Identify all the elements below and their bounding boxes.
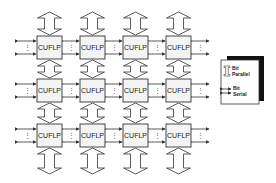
bit-parallel-link [38, 103, 62, 123]
bit-parallel-link-bottom [167, 148, 191, 174]
legend: Bit Parallel Bit Serial [221, 56, 264, 104]
bit-parallel-link-bottom [124, 148, 148, 174]
ellipsis-icon: ⋮ [24, 87, 31, 94]
node-label: CUFLP [167, 87, 190, 94]
bit-parallel-link-top [81, 12, 105, 35]
node-label: CUFLP [81, 132, 104, 139]
ellipsis-icon: ⋮ [197, 132, 204, 139]
bit-serial-link: ⋮ [63, 129, 79, 142]
ellipsis-icon: ⋮ [197, 44, 204, 51]
bit-serial-link-left: ⋮ [18, 84, 36, 97]
bit-serial-link: ⋮ [149, 129, 165, 142]
ellipsis-icon: ⋮ [154, 44, 161, 51]
bit-parallel-link-top [38, 12, 62, 35]
bit-parallel-link [124, 60, 148, 78]
ellipsis-icon: ⋮ [68, 87, 75, 94]
node-label: CUFLP [124, 132, 147, 139]
bit-parallel-link [167, 60, 191, 78]
cuflp-node: CUFLP [80, 124, 105, 147]
bit-serial-link: ⋮ [106, 129, 122, 142]
bit-serial-link-right: ⋮ [192, 84, 209, 97]
bit-serial-link-left: ⋮ [18, 129, 36, 142]
ellipsis-icon: ⋮ [154, 132, 161, 139]
node-label: CUFLP [167, 44, 190, 51]
ellipsis-icon: ⋮ [197, 87, 204, 94]
node-label: CUFLP [38, 132, 61, 139]
cuflp-node: CUFLP [37, 79, 62, 102]
cuflp-node: CUFLP [166, 124, 191, 147]
bit-serial-link: ⋮ [149, 41, 165, 54]
bit-parallel-link-top [167, 12, 191, 35]
cuflp-node: CUFLP [166, 36, 191, 59]
bit-serial-link: ⋮ [149, 84, 165, 97]
bit-serial-link-right: ⋮ [192, 129, 209, 142]
ellipsis-icon: ⋮ [68, 44, 75, 51]
legend-serial-line2: Serial [233, 91, 247, 97]
ellipsis-icon: ⋮ [111, 132, 118, 139]
bit-parallel-link [38, 60, 62, 78]
node-label: CUFLP [81, 87, 104, 94]
ellipsis-icon: ⋮ [111, 87, 118, 94]
bit-parallel-link [124, 103, 148, 123]
cuflp-node: CUFLP [123, 36, 148, 59]
node-label: CUFLP [38, 87, 61, 94]
bit-parallel-link [81, 103, 105, 123]
cuflp-node: CUFLP [80, 79, 105, 102]
processor-array-diagram: ⋮⋮⋮⋮⋮⋮⋮⋮⋮⋮⋮⋮⋮⋮⋮CUFLPCUFLPCUFLPCUFLPCUFLP… [0, 0, 276, 183]
ellipsis-icon: ⋮ [68, 132, 75, 139]
bit-serial-link: ⋮ [106, 41, 122, 54]
bit-parallel-link-top [124, 12, 148, 35]
node-label: CUFLP [81, 44, 104, 51]
bit-serial-link: ⋮ [106, 84, 122, 97]
node-label: CUFLP [38, 44, 61, 51]
ellipsis-icon: ⋮ [154, 87, 161, 94]
cuflp-node: CUFLP [37, 124, 62, 147]
bit-parallel-link [81, 60, 105, 78]
ellipsis-icon: ⋮ [111, 44, 118, 51]
cuflp-node: CUFLP [166, 79, 191, 102]
bit-serial-link-left: ⋮ [18, 41, 36, 54]
ellipsis-icon: ⋮ [24, 44, 31, 51]
node-label: CUFLP [167, 132, 190, 139]
bit-serial-link-right: ⋮ [192, 41, 209, 54]
legend-parallel-line2: Parallel [232, 71, 250, 77]
cuflp-node: CUFLP [123, 124, 148, 147]
cuflp-node: CUFLP [80, 36, 105, 59]
cuflp-node: CUFLP [123, 79, 148, 102]
bit-serial-link: ⋮ [63, 84, 79, 97]
node-label: CUFLP [124, 87, 147, 94]
bit-serial-link: ⋮ [63, 41, 79, 54]
cuflp-node: CUFLP [37, 36, 62, 59]
bit-parallel-link-bottom [81, 148, 105, 174]
grid: ⋮⋮⋮⋮⋮⋮⋮⋮⋮⋮⋮⋮⋮⋮⋮CUFLPCUFLPCUFLPCUFLPCUFLP… [18, 12, 209, 174]
node-label: CUFLP [124, 44, 147, 51]
ellipsis-icon: ⋮ [24, 132, 31, 139]
bit-parallel-link-bottom [38, 148, 62, 174]
bit-parallel-link [167, 103, 191, 123]
